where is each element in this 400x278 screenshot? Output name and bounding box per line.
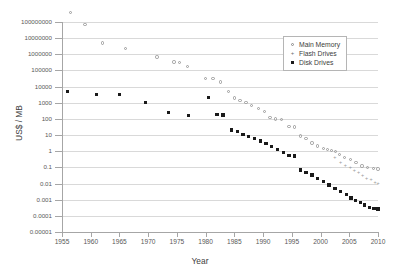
data-point-main-memory (268, 116, 271, 119)
gridline (62, 200, 378, 201)
data-point-disk-drives (327, 183, 330, 186)
data-point-disk-drives (207, 96, 210, 99)
data-point-main-memory (343, 156, 346, 159)
x-axis-line (62, 232, 379, 233)
data-point-disk-drives (287, 154, 290, 157)
data-point-main-memory (257, 107, 260, 110)
data-point-disk-drives (247, 135, 250, 138)
data-point-main-memory (304, 137, 307, 140)
plus-icon: + (288, 49, 297, 58)
data-point-disk-drives (167, 111, 170, 114)
data-point-main-memory (244, 101, 247, 104)
data-point-main-memory (334, 150, 337, 153)
data-point-main-memory (338, 153, 341, 156)
x-axis-tick (91, 233, 92, 237)
data-point-disk-drives (354, 199, 357, 202)
gridline (62, 119, 378, 120)
data-point-disk-drives (339, 190, 342, 193)
y-axis-tick-label: 1000000 (28, 51, 52, 57)
x-axis-tick (378, 233, 379, 237)
x-axis-tick (148, 233, 149, 237)
data-point-disk-drives (264, 142, 267, 145)
y-axis-tick-label: 0.0001 (33, 213, 52, 219)
data-point-main-memory (360, 164, 363, 167)
legend-item-disk-drives: Disk Drives (288, 58, 340, 67)
data-point-disk-drives (187, 114, 190, 117)
data-point-disk-drives (270, 145, 273, 148)
data-point-main-memory (310, 141, 313, 144)
y-axis-tick (55, 184, 62, 185)
data-point-main-memory (250, 104, 253, 107)
data-point-flash-drives (376, 181, 380, 185)
x-axis-tick (263, 233, 264, 237)
data-point-disk-drives (293, 154, 296, 157)
data-point-main-memory (366, 166, 369, 169)
data-point-disk-drives (322, 180, 325, 183)
y-axis-tick-label: 100000 (31, 67, 52, 73)
data-point-disk-drives (215, 113, 218, 116)
data-point-disk-drives (118, 93, 121, 96)
gridline (62, 135, 378, 136)
data-point-disk-drives (66, 90, 69, 93)
y-axis-tick-label: 1 (49, 148, 52, 154)
data-point-main-memory (263, 110, 266, 113)
data-point-main-memory (227, 90, 230, 93)
y-axis-tick (55, 70, 62, 71)
data-point-disk-drives (241, 133, 244, 136)
y-axis-tick (55, 135, 62, 136)
y-axis-tick-label: 10000000 (24, 35, 52, 41)
data-point-disk-drives (276, 148, 279, 151)
open-circle-icon (288, 40, 297, 49)
data-point-main-memory (124, 47, 127, 50)
x-axis-title: Year (0, 256, 400, 266)
data-point-disk-drives (236, 130, 239, 133)
y-axis-tick-label: 0.1 (43, 164, 52, 170)
data-point-disk-drives (368, 206, 371, 209)
x-axis-tick (234, 233, 235, 237)
data-point-main-memory (155, 55, 158, 58)
y-axis-tick-label: 0.001 (37, 197, 52, 203)
data-point-disk-drives (349, 196, 352, 199)
legend-label: Flash Drives (297, 50, 337, 57)
x-axis-tick (206, 233, 207, 237)
data-point-disk-drives (363, 203, 366, 206)
y-axis-tick (55, 232, 62, 233)
data-point-main-memory (211, 77, 214, 80)
data-point-main-memory (299, 134, 302, 137)
data-point-disk-drives (333, 187, 336, 190)
data-point-main-memory (354, 161, 357, 164)
data-point-main-memory (172, 60, 175, 63)
data-point-flash-drives (333, 155, 337, 159)
chart-legend: Main Memory + Flash Drives Disk Drives (283, 36, 347, 71)
gridline (62, 103, 378, 104)
data-point-main-memory (287, 125, 290, 128)
data-point-main-memory (219, 80, 222, 83)
data-point-disk-drives (144, 101, 147, 104)
data-point-main-memory (83, 23, 86, 26)
data-point-disk-drives (282, 151, 285, 154)
data-point-main-memory (101, 41, 104, 44)
data-point-main-memory (372, 167, 375, 170)
data-point-disk-drives (253, 137, 256, 140)
y-axis-tick (55, 216, 62, 217)
data-point-disk-drives (359, 201, 362, 204)
data-point-disk-drives (299, 168, 302, 171)
gridline (62, 87, 378, 88)
data-point-main-memory (238, 99, 241, 102)
y-axis-tick-label: 100 (42, 116, 52, 122)
x-axis-tick (292, 233, 293, 237)
gridline (62, 216, 378, 217)
y-axis-tick (55, 151, 62, 152)
data-point-disk-drives (95, 93, 98, 96)
data-point-main-memory (178, 61, 181, 64)
x-axis-tick-label: 2010 (358, 239, 398, 246)
data-point-disk-drives (372, 207, 375, 210)
data-point-disk-drives (376, 207, 379, 210)
x-axis-tick (177, 233, 178, 237)
data-point-disk-drives (345, 193, 348, 196)
data-point-main-memory (233, 96, 236, 99)
data-point-disk-drives (316, 177, 319, 180)
y-axis-tick-label: 10000 (35, 84, 52, 90)
y-axis-title: US$ / MB (14, 88, 24, 158)
y-axis-tick (55, 87, 62, 88)
